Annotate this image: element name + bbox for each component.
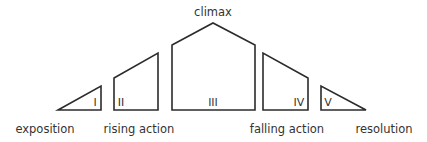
stage-5-numeral: V <box>324 96 332 109</box>
caption-resolution: resolution <box>355 122 412 136</box>
caption-rising-action: rising action <box>104 122 175 136</box>
caption-falling-action: falling action <box>250 122 324 136</box>
stage-2: II <box>114 53 158 110</box>
stage-3: III <box>172 23 255 110</box>
stage-5: V <box>321 86 366 110</box>
stage-1-numeral: I <box>93 96 96 109</box>
stage-4: IV <box>263 53 308 110</box>
dramatic-structure-diagram: climax I II III IV V exposition rising a… <box>0 0 427 142</box>
stage-4-numeral: IV <box>294 96 305 109</box>
climax-label: climax <box>194 5 232 19</box>
stage-3-numeral: III <box>208 96 218 109</box>
stage-1: I <box>58 86 101 110</box>
caption-exposition: exposition <box>15 122 74 136</box>
stage-2-numeral: II <box>118 96 125 109</box>
